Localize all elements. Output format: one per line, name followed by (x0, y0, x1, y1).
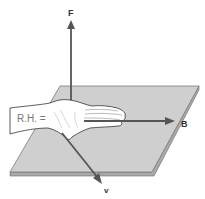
hand-label: R.H. = (17, 113, 46, 124)
force-arrowhead (67, 20, 75, 29)
force-label: F (68, 8, 74, 18)
plate (10, 86, 199, 172)
velocity-label: v (104, 186, 109, 195)
field-label: B (181, 119, 188, 129)
right-hand-rule-diagram: F B v R.H. = (0, 0, 205, 199)
